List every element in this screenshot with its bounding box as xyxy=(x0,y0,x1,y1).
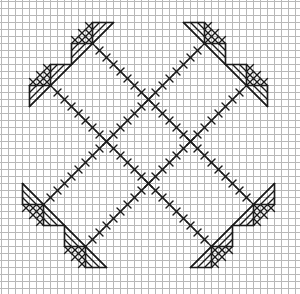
pattern-svg xyxy=(0,0,300,294)
cross-stitch-chart xyxy=(0,0,300,294)
grid-lines xyxy=(0,0,300,294)
